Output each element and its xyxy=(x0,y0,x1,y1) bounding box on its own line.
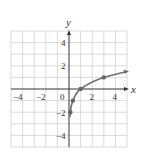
tick-y-m4: −4 xyxy=(56,131,66,141)
tick-y-2: 2 xyxy=(61,61,66,71)
point xyxy=(102,75,106,79)
tick-x-2: 2 xyxy=(90,92,95,102)
tick-x-0: 0 xyxy=(60,92,65,102)
chart: −4 −2 0 2 4 4 2 −2 −4 x y xyxy=(0,0,143,154)
tick-x-4: 4 xyxy=(113,92,118,102)
x-axis-arrow-icon xyxy=(124,87,129,91)
tick-y-4: 4 xyxy=(61,38,66,48)
marked-points xyxy=(68,75,106,114)
tick-y-m2: −2 xyxy=(56,108,66,118)
point xyxy=(78,87,82,91)
curve-arrow-icon xyxy=(124,70,130,74)
y-axis-label: y xyxy=(65,16,71,28)
tick-x-m2: −2 xyxy=(36,92,46,102)
point xyxy=(68,110,72,114)
x-axis-label: x xyxy=(130,83,136,95)
tick-x-m4: −4 xyxy=(13,92,23,102)
axes xyxy=(11,32,126,147)
point xyxy=(71,98,75,102)
